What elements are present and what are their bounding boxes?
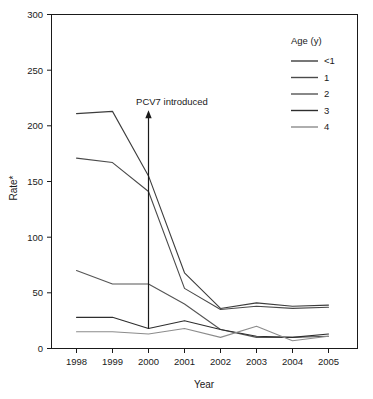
y-tick-label-200: 200 xyxy=(27,120,43,131)
chart-figure: 300 250 200 150 100 50 0 Rate* 199819992… xyxy=(0,0,373,399)
x-tick-label-2004: 2004 xyxy=(282,356,303,367)
legend-label-age-3: 3 xyxy=(324,105,329,116)
legend-label-age-lt1: <1 xyxy=(324,55,335,66)
x-tick-label-2001: 2001 xyxy=(174,356,195,367)
legend-title: Age (y) xyxy=(291,35,322,46)
annotation-label: PCV7 introduced xyxy=(136,96,208,107)
legend-label-age-1: 1 xyxy=(324,72,329,83)
y-axis-tick-labels: 300 250 200 150 100 50 0 xyxy=(27,9,43,354)
x-axis-tick-labels: 19981999200020012002200320042005 xyxy=(66,356,339,367)
x-tick-label-1998: 1998 xyxy=(66,356,87,367)
plot-area-border xyxy=(52,15,358,349)
y-tick-label-250: 250 xyxy=(27,65,43,76)
x-axis-ticks xyxy=(77,349,329,354)
y-axis-title: Rate* xyxy=(8,175,19,200)
x-axis-title: Year xyxy=(194,379,215,390)
line-chart: 300 250 200 150 100 50 0 Rate* 199819992… xyxy=(0,0,373,399)
y-tick-label-150: 150 xyxy=(27,176,43,187)
plot-frame xyxy=(52,15,358,349)
y-tick-label-50: 50 xyxy=(32,287,43,298)
y-axis-ticks xyxy=(47,15,52,349)
x-tick-label-2000: 2000 xyxy=(138,356,159,367)
x-tick-label-2002: 2002 xyxy=(210,356,231,367)
x-tick-label-1999: 1999 xyxy=(102,356,123,367)
x-tick-label-2005: 2005 xyxy=(318,356,339,367)
y-tick-label-0: 0 xyxy=(38,343,43,354)
legend-label-age-2: 2 xyxy=(324,88,329,99)
legend-label-age-4: 4 xyxy=(324,121,329,132)
y-tick-label-300: 300 xyxy=(27,9,43,20)
x-tick-label-2003: 2003 xyxy=(246,356,267,367)
y-tick-label-100: 100 xyxy=(27,232,43,243)
